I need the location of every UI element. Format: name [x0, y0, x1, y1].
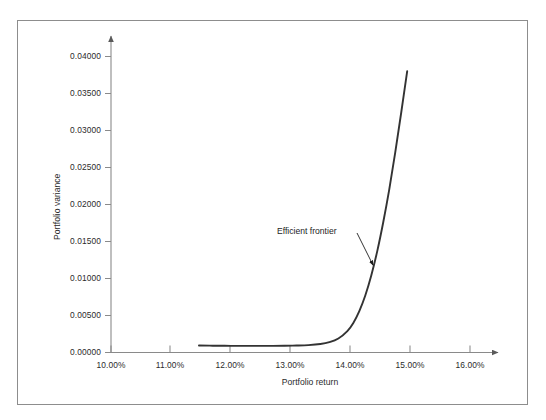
- x-tick-label: 14.00%: [320, 360, 380, 370]
- y-tick-label: 0.04000: [44, 51, 101, 61]
- y-tick-label: 0.01000: [44, 273, 101, 283]
- y-tick-label: 0.03500: [44, 88, 101, 98]
- y-tick-label: 0.00000: [44, 347, 101, 357]
- y-axis-ticks: [105, 57, 111, 353]
- y-tick-label: 0.00500: [44, 310, 101, 320]
- x-tick-label: 16.00%: [440, 360, 500, 370]
- x-tick-label: 15.00%: [380, 360, 440, 370]
- y-tick-label: 0.02500: [44, 162, 101, 172]
- y-axis-title: Portfolio variance: [52, 174, 62, 240]
- y-tick-label: 0.03000: [44, 125, 101, 135]
- efficient-frontier-curve: [199, 71, 407, 346]
- x-tick-label: 11.00%: [140, 360, 200, 370]
- x-tick-label: 10.00%: [81, 360, 141, 370]
- x-tick-label: 13.00%: [260, 360, 320, 370]
- efficient-frontier-arrow: [357, 233, 373, 265]
- axes-group: [111, 36, 498, 353]
- plot-canvas: [0, 0, 546, 420]
- x-axis-title: Portfolio return: [255, 377, 365, 387]
- x-tick-label: 12.00%: [200, 360, 260, 370]
- efficient-frontier-label: Efficient frontier: [277, 226, 337, 236]
- chart-figure: Efficient frontier 0.04000 0.03500 0.030…: [0, 0, 546, 420]
